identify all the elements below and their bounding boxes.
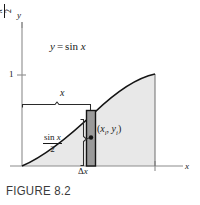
pi-over-two-stack: π 2 (0, 4, 14, 18)
pi-denominator: 2 (5, 4, 13, 18)
sine-area-plot (0, 0, 200, 205)
y-axis-label: y (17, 11, 21, 20)
point-comma: , (107, 123, 110, 134)
strip-width-label: Δx (78, 167, 88, 176)
fraction-numerator: sin x (43, 133, 62, 144)
figure-container: y x 1 y=sin x x (xi, yi) Δx sin x 2 π 2 … (0, 0, 200, 205)
figure-caption: FIGURE 8.2 (6, 183, 71, 198)
height-fraction-label: sin x 2 (43, 133, 62, 154)
fraction-denominator: 2 (43, 144, 62, 154)
fraction-argument: x (57, 132, 61, 142)
x-axis-label: x (185, 162, 189, 171)
y-axis-tick-label-one: 1 (9, 70, 14, 79)
width-brace-label: x (60, 88, 64, 98)
point-coordinate-label: (xi, yi) (97, 124, 121, 137)
delta-variable: x (84, 166, 88, 176)
equation-label: y=sin x (50, 41, 86, 52)
point-paren-close: ) (118, 123, 121, 134)
fraction-function: sin (44, 132, 55, 142)
midpoint-dot (89, 135, 93, 139)
equation-function: sin (65, 40, 78, 52)
equation-operator: = (55, 40, 65, 52)
equation-argument: x (81, 40, 86, 52)
width-brace (23, 102, 91, 110)
